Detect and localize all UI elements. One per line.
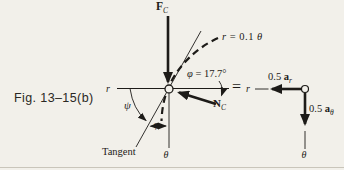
r-axis-label-left: r [106, 84, 110, 94]
r-axis-label-right: r [246, 84, 250, 94]
equals-sign: = [232, 79, 241, 95]
fc-label-base: F [156, 0, 163, 12]
diagram-canvas [0, 0, 344, 170]
textbook-figure: Fig. 13–15(b) FC r = 0.1 θ φ = 17.7° = ψ… [0, 0, 344, 170]
fc-label: FC [156, 1, 168, 14]
nc-label: NC [213, 98, 226, 111]
figure-caption: Fig. 13–15(b) [14, 92, 94, 105]
theta-axis-label-right: θ [302, 150, 307, 160]
nc-label-base: N [213, 97, 221, 109]
theta-axis-label-left: θ [164, 150, 169, 160]
nc-label-sub: C [221, 103, 226, 112]
particle-circle-right [302, 86, 309, 93]
phi-value-label: φ = 17.7° [187, 69, 227, 80]
tangent-label: Tangent [102, 147, 136, 158]
fc-label-sub: C [163, 6, 168, 15]
phi-angle-label: φ [154, 120, 160, 130]
psi-angle-arc [130, 89, 146, 121]
ar-label: 0.5 ar [268, 72, 292, 84]
figure-bottom-border [0, 167, 344, 168]
psi-angle-label: ψ [124, 100, 131, 111]
nc-force-arrow [179, 93, 216, 104]
particle-circle [165, 85, 173, 93]
atheta-label: 0.5 aθ [309, 104, 334, 116]
curve-equation-label: r = 0.1 θ [222, 32, 263, 43]
